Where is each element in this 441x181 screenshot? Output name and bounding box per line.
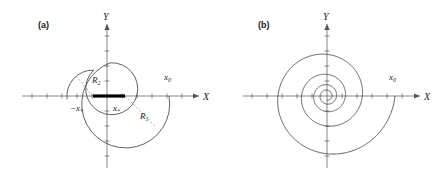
panel-b-tag: (b) [258,20,270,30]
panel-a-label-x-star: x* [112,103,120,114]
panel-b-label-x0: x0 [388,72,396,83]
panel-a-y-axis-label: Y [103,11,110,22]
panel-b-y-axis-label: Y [323,11,330,22]
panel-b-x-axis-label: X [423,91,431,102]
panel-b-x-axis: X [243,91,431,102]
figure-two-panel-phase-portraits: (a) X [0,0,441,181]
panel-a-label-r2: R2 [91,75,101,86]
panel-a-tag: (a) [38,20,49,30]
panel-a-label-r1: R1 [139,111,149,122]
panel-b-y-axis: Y [323,11,330,168]
panel-b-spiral [278,54,395,154]
panel-b-x-axis-arrowhead [414,93,420,98]
panel-a-arc-r2 [86,63,138,115]
panel-a-radius-r2-dashed [77,77,94,97]
panel-a: (a) X [22,11,210,168]
panel-b: (b) X [243,11,431,168]
panel-a-label-minus-x-star: −x* [70,103,83,114]
panel-a-x-axis-arrowhead [193,93,199,98]
panel-b-y-axis-arrowhead [324,24,329,30]
panel-a-x-axis-label: X [202,91,210,102]
panel-a-y-axis-arrowhead [104,24,109,30]
panel-a-label-x0: x0 [163,72,171,83]
